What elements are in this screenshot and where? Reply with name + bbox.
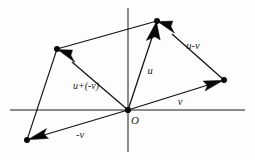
vector-v [128,80,224,110]
parallelogram-edge-left [27,49,57,140]
label-vector-v: v [178,96,183,107]
vector-v-shaft [128,85,208,110]
parallelogram-edge-top [57,21,157,49]
point-origin-dot [125,107,131,113]
point-u-tip-dot [154,18,160,24]
point-v-tip-dot [221,77,227,83]
label-vector-u: u [147,65,152,76]
vector-u-minus-v-arrowhead [158,21,175,33]
vector-diagram-canvas: O u v -v u-v u+(-v) [0,0,255,160]
vector-neg-v-shaft [44,110,128,135]
point-resultant-tip-dot [54,46,60,52]
vector-u [128,22,160,111]
vector-u-plus-neg-v-arrowhead [58,50,76,63]
label-vector-u-minus-v: u-v [186,40,200,51]
label-vector-neg-v: -v [76,129,84,140]
point-neg-v-tip-dot [24,137,30,143]
vector-u-arrowhead [146,22,160,41]
vector-diagram-figure: O u v -v u-v u+(-v) [0,0,255,160]
label-vector-u-plus-neg-v: u+(-v) [73,80,100,92]
label-origin: O [131,114,139,126]
